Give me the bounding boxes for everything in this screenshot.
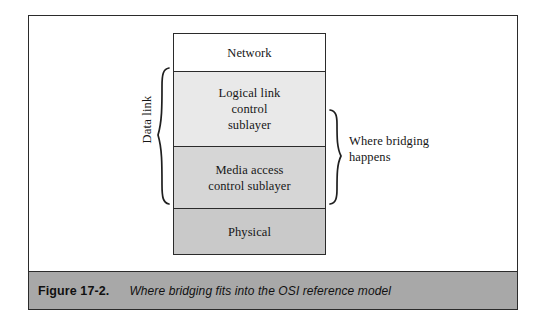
bridging-label-line1: Where bridging (349, 133, 469, 149)
left-curly-brace-icon (155, 66, 171, 206)
right-curly-brace-icon (328, 108, 344, 206)
layer-box-physical: Physical (174, 209, 325, 254)
figure-caption-text: Where bridging fits into the OSI referen… (129, 284, 391, 298)
layer-label-mac-line1: Media access (208, 162, 290, 178)
diagram-canvas: Network Logical link control sublayer Me… (29, 16, 517, 271)
osi-layer-stack: Network Logical link control sublayer Me… (173, 33, 326, 255)
bridging-label-line2: happens (349, 149, 469, 165)
layer-label-physical: Physical (228, 224, 271, 240)
layer-box-logical-link-control: Logical link control sublayer (174, 72, 325, 147)
layer-label-network: Network (227, 45, 271, 61)
figure-caption-number: Figure 17-2. (38, 284, 109, 298)
data-link-annotation-label: Data link (140, 104, 155, 144)
layer-label-mac-line2: control sublayer (208, 178, 290, 194)
layer-label-llc-line2: control (219, 101, 281, 117)
figure-caption-bar: Figure 17-2. Where bridging fits into th… (29, 271, 517, 309)
layer-label-llc-line1: Logical link (219, 85, 281, 101)
layer-box-network: Network (174, 34, 325, 72)
layer-label-llc-line3: sublayer (219, 117, 281, 133)
where-bridging-happens-annotation: Where bridging happens (349, 133, 469, 166)
layer-box-media-access-control: Media access control sublayer (174, 147, 325, 209)
figure-frame: Network Logical link control sublayer Me… (28, 15, 518, 310)
